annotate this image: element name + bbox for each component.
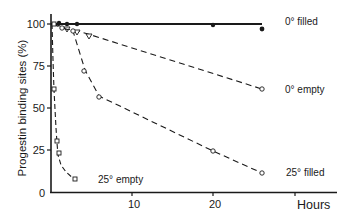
filled-circle-marker: [211, 23, 215, 27]
open-square-marker: [52, 22, 56, 26]
filled-circle-marker: [65, 22, 69, 26]
y-axis-title: Progestin binding sites (%): [16, 39, 28, 176]
series-0-filled: [51, 21, 264, 32]
y-tick-label-100: 100: [27, 18, 45, 30]
series-25-empty-line: [52, 24, 74, 179]
series-label-25-filled: 25° filled: [286, 167, 324, 178]
open-square-marker: [57, 151, 61, 155]
series-25-empty: [52, 22, 77, 181]
y-tick-labels: 100 75 50 25 0: [27, 18, 45, 199]
series-label-25-empty: 25° empty: [98, 174, 143, 185]
open-square-marker: [55, 139, 59, 143]
open-triangle-marker: [86, 34, 92, 39]
binding-sites-chart: 100 75 50 25 0 10 20 Progestin binding s…: [0, 0, 347, 218]
open-square-marker: [52, 87, 56, 91]
series-25-filled: [53, 24, 264, 175]
open-circle-marker: [260, 87, 264, 91]
open-circle-marker: [71, 29, 75, 33]
y-tick-label-50: 50: [33, 102, 45, 114]
filled-circle-marker: [260, 27, 265, 32]
open-circle-marker: [60, 26, 64, 30]
series-labels: 0° filled 0° empty 25° filled 25° empty: [98, 16, 325, 185]
open-square-marker: [73, 177, 77, 181]
open-circle-marker: [211, 149, 215, 153]
open-circle-marker: [82, 69, 86, 73]
open-circle-marker: [260, 171, 264, 175]
open-circle-marker: [97, 95, 101, 99]
filled-circle-marker: [75, 22, 79, 26]
y-tick-label-0: 0: [39, 187, 45, 199]
y-tick-label-75: 75: [33, 60, 45, 72]
x-axis-title: Hours: [297, 198, 330, 212]
series-25-filled-line: [53, 24, 262, 173]
series-0-empty: [55, 24, 264, 91]
x-tick-labels: 10 20: [128, 198, 221, 210]
x-tick-label-20: 20: [209, 198, 221, 210]
x-tick-label-10: 10: [128, 198, 140, 210]
y-tick-label-25: 25: [33, 144, 45, 156]
series-label-0-empty: 0° empty: [285, 84, 325, 95]
series-label-0-filled: 0° filled: [285, 16, 318, 27]
